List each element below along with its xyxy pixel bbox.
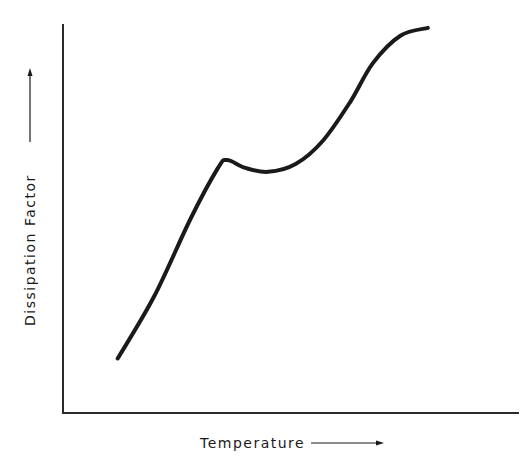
y-axis-label: Dissipation Factor [22, 174, 38, 326]
x-arrow-icon [311, 441, 384, 446]
chart: Dissipation Factor Temperature [0, 0, 531, 459]
y-arrow-icon [28, 68, 33, 142]
x-axis-label: Temperature [199, 435, 305, 451]
dissipation-curve [118, 28, 428, 359]
